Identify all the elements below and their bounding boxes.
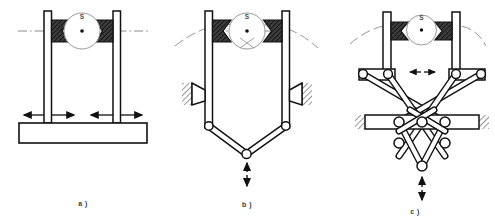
jaw-left-b [205, 11, 213, 128]
mechanism-figure: S a ) [0, 0, 495, 221]
figure-svg: S a ) [0, 0, 495, 221]
jaw-right-a [113, 11, 121, 123]
jaw-right-b [282, 11, 290, 128]
panel-c-caption: c ) [410, 208, 420, 216]
cam-disc-b: S [229, 13, 265, 49]
cam-centre-b [245, 29, 249, 33]
jaw-left-a [44, 11, 52, 123]
cam-label-a: S [80, 13, 85, 20]
panel-b-caption: b ) [242, 201, 252, 209]
cam-centre-c [420, 28, 423, 31]
cam-centre-a [80, 29, 84, 33]
cam-disc-a: S [64, 13, 100, 49]
cam-label-b: S [245, 13, 250, 20]
cam-label-c: S [419, 14, 424, 21]
jaw-left-c [383, 12, 391, 75]
panel-a-caption: a ) [78, 200, 88, 208]
jaw-right-c [452, 12, 460, 75]
base-bar-a [19, 123, 147, 143]
